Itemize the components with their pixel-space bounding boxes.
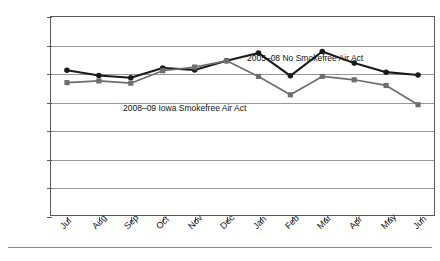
footer-divider <box>8 247 432 248</box>
data-point-marker <box>415 72 421 78</box>
x-tick-label: Oct <box>154 214 171 231</box>
x-tick-label: Dec <box>218 213 236 231</box>
data-point-marker <box>320 74 325 79</box>
series-1 <box>64 49 421 81</box>
annotation-intervention-series: 2008–09 Iowa Smokefree Air Act <box>123 103 246 113</box>
data-point-marker <box>288 73 294 79</box>
x-tick-label: Apr <box>347 214 364 231</box>
x-tick-label: Nov <box>186 213 204 231</box>
data-point-marker <box>256 74 261 79</box>
series-container <box>51 17 434 215</box>
data-point-marker <box>192 64 197 69</box>
x-tick-label: Mar <box>315 213 333 231</box>
data-point-marker <box>384 83 389 88</box>
x-tick-label: Sep <box>122 213 140 231</box>
data-point-marker <box>96 78 101 83</box>
data-point-marker <box>383 69 389 75</box>
data-point-marker <box>128 75 134 81</box>
data-point-marker <box>160 68 165 73</box>
x-tick-label: Feb <box>283 213 301 231</box>
data-point-marker <box>415 102 420 107</box>
x-tick-label: Aug <box>90 213 108 231</box>
data-point-marker <box>64 80 69 85</box>
series-line <box>67 52 418 78</box>
series-2 <box>64 58 420 107</box>
x-tick-label: Jan <box>251 214 268 231</box>
series-line <box>67 61 418 105</box>
annotation-control-series: 2005–08 No Smokefree Air Act <box>247 53 363 63</box>
plot-area: JulAugSepOctNovDecJanFebMarAprMayJun 200… <box>50 16 435 216</box>
data-point-marker <box>224 58 229 63</box>
y-tick-mark <box>47 217 52 218</box>
chart-figure: Number of Hospitalizations 0100200300400… <box>0 0 440 261</box>
data-point-marker <box>96 73 102 79</box>
data-point-marker <box>352 77 357 82</box>
data-point-marker <box>64 67 70 73</box>
x-tick-label: Jul <box>58 216 73 231</box>
data-point-marker <box>128 81 133 86</box>
x-tick-label: Jun <box>411 214 428 231</box>
data-point-marker <box>288 92 293 97</box>
